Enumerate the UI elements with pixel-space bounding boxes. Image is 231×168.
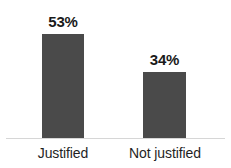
bar-value-label: 34% xyxy=(150,51,179,68)
bar-value-label: 53% xyxy=(48,13,77,30)
x-axis-category-labels: Justified Not justified xyxy=(0,141,231,168)
x-axis-label-not-justified: Not justified xyxy=(120,145,210,161)
x-axis-label-justified: Justified xyxy=(22,145,104,161)
bar-not-justified[interactable] xyxy=(143,72,186,139)
bar-chart: 53% 34% Justified Not justified xyxy=(0,0,231,168)
x-axis-baseline xyxy=(6,138,225,139)
bar-group-justified: 53% xyxy=(42,0,84,139)
plot-area: 53% 34% xyxy=(0,0,231,139)
bar-justified[interactable] xyxy=(42,34,84,139)
bar-group-not-justified: 34% xyxy=(143,0,186,139)
